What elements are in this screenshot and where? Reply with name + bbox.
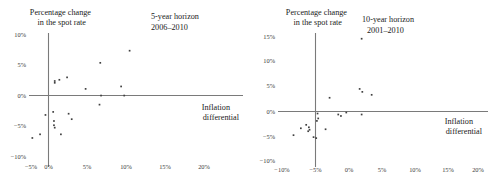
data-point	[361, 114, 363, 116]
data-point	[293, 134, 295, 136]
data-point	[31, 137, 33, 139]
data-point	[85, 88, 87, 90]
data-point	[361, 91, 363, 93]
data-point	[329, 97, 331, 99]
y-axis-title-line2-right: in the spot rate	[294, 18, 343, 27]
data-point	[68, 113, 70, 115]
data-point	[371, 94, 373, 96]
x-tick-label: 15%	[159, 163, 171, 170]
x-tick-labels-left: −5% 0% 5% 10% 15% 20%	[25, 163, 211, 170]
x-axis-title-line2-left: differential	[203, 113, 240, 122]
y-tick-labels-left: 10% 5% 0% −5% −10%	[11, 31, 27, 160]
y-tick-label: 5%	[17, 61, 26, 68]
y-tick-label: 5%	[266, 82, 275, 89]
data-point	[315, 137, 317, 139]
chart-panel-10-year: Percentage change in the spot rate 10-ye…	[245, 0, 490, 194]
data-point	[300, 127, 302, 129]
data-point	[337, 114, 339, 116]
y-tick-labels-right: 15% 10% 5% 0% −5% −10%	[260, 33, 276, 164]
chart-svg-left: Percentage change in the spot rate 5-yea…	[0, 0, 245, 194]
data-point	[39, 133, 41, 135]
y-tick-label: 10%	[14, 31, 26, 38]
data-point-group-right	[293, 38, 373, 139]
y-axis-title-line1-left: Percentage change	[30, 8, 92, 17]
x-tick-label: −5%	[25, 163, 38, 170]
data-point	[313, 136, 315, 138]
x-tick-label: 0%	[345, 166, 354, 173]
panel-title-line1-left: 5-year horizon	[151, 12, 199, 21]
x-tick-labels-right: −10% −5% 0% 5% 10% 15% 20%	[274, 166, 484, 173]
x-tick-label: 5%	[378, 166, 387, 173]
panel-title-line2-right: 2001–2010	[367, 26, 404, 35]
y-axis-title-line2-left: in the spot rate	[38, 18, 87, 27]
data-point	[325, 128, 327, 130]
x-tick-label: 10%	[409, 166, 421, 173]
data-point	[53, 120, 55, 122]
data-point	[71, 118, 73, 120]
y-tick-label: 0%	[17, 92, 26, 99]
panel-title-line1-right: 10-year horizon	[362, 15, 414, 24]
data-point	[361, 38, 363, 40]
chart-panel-5-year: Percentage change in the spot rate 5-yea…	[0, 0, 245, 194]
y-tick-label: −10%	[11, 153, 27, 160]
x-tick-label: 15%	[442, 166, 454, 173]
data-point	[54, 82, 56, 84]
chart-svg-right: Percentage change in the spot rate 10-ye…	[245, 0, 490, 194]
data-point	[309, 129, 311, 131]
y-tick-label: −5%	[14, 122, 27, 129]
data-point	[53, 124, 55, 126]
data-point-group-left	[31, 50, 130, 139]
x-axis-title-line1-right: Inflation	[445, 117, 473, 126]
data-point	[120, 86, 122, 88]
data-point	[99, 104, 101, 106]
y-tick-label: −10%	[260, 157, 276, 164]
data-point	[59, 79, 61, 81]
data-point	[66, 77, 68, 79]
data-point	[345, 112, 347, 114]
x-tick-label: 20%	[472, 166, 484, 173]
x-tick-label: 20%	[198, 163, 210, 170]
y-tick-label: −5%	[263, 133, 276, 140]
data-point	[359, 88, 361, 90]
x-axis-title-line2-right: differential	[446, 127, 483, 136]
data-point	[317, 113, 319, 115]
data-point	[129, 50, 131, 52]
scatter-figure-pair: Percentage change in the spot rate 5-yea…	[0, 0, 490, 194]
y-axis-title-line1-right: Percentage change	[286, 8, 348, 17]
data-point	[52, 111, 54, 113]
data-point	[305, 124, 307, 126]
data-point	[99, 62, 101, 64]
data-point	[45, 114, 47, 116]
x-tick-label: −5%	[309, 166, 322, 173]
data-point	[54, 127, 56, 129]
x-tick-label: 5%	[83, 163, 92, 170]
data-point	[316, 120, 318, 122]
data-point	[317, 118, 319, 120]
y-tick-label: 15%	[263, 33, 275, 40]
data-point	[60, 133, 62, 135]
data-point	[340, 115, 342, 117]
x-tick-label: −10%	[274, 166, 290, 173]
y-tick-label: 10%	[263, 57, 275, 64]
data-point	[123, 95, 125, 97]
data-point	[100, 95, 102, 97]
x-axis-title-line1-left: Inflation	[202, 103, 230, 112]
x-tick-label: 10%	[120, 163, 132, 170]
x-tick-label: 0%	[44, 163, 53, 170]
data-point	[54, 80, 56, 82]
y-tick-label: 0%	[266, 108, 275, 115]
data-point	[307, 130, 309, 132]
panel-title-line2-left: 2006–2010	[151, 23, 188, 32]
data-point	[308, 126, 310, 128]
